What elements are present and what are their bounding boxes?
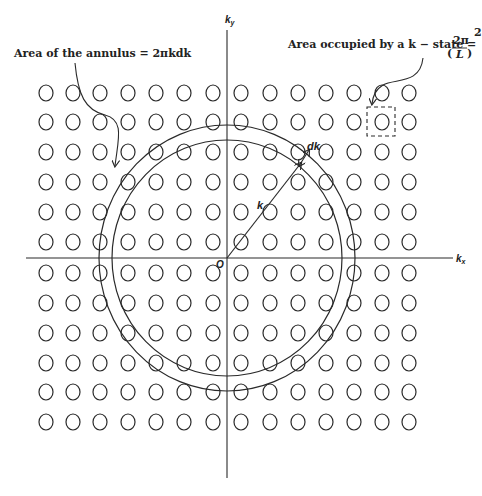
k-state-circle: [234, 144, 248, 160]
k-state-circle: [206, 174, 220, 190]
k-state-circle: [66, 325, 80, 341]
k-state-circle: [234, 355, 248, 371]
k-state-circle: [402, 144, 416, 160]
k-state-circle: [149, 144, 163, 160]
k-state-circle: [291, 265, 305, 281]
k-state-circle: [39, 414, 53, 430]
k-state-circle: [291, 114, 305, 130]
k-state-circle: [121, 234, 135, 250]
k-state-circle: [291, 174, 305, 190]
annulus-area-annotation: Area of the annulus = 2πkdk: [13, 47, 191, 60]
k-state-circle: [39, 85, 53, 101]
k-state-circle: [402, 414, 416, 430]
k-space-diagram: O k dk ky kx Area of the annulus = 2πkdk…: [0, 0, 482, 496]
k-state-circle: [66, 114, 80, 130]
k-state-circle: [291, 144, 305, 160]
k-state-circle: [39, 174, 53, 190]
k-state-circle: [93, 85, 107, 101]
k-state-circle: [347, 384, 361, 400]
k-state-circle: [206, 355, 220, 371]
k-state-circle: [39, 144, 53, 160]
k-state-circle: [347, 144, 361, 160]
k-state-circle: [402, 384, 416, 400]
k-state-circle: [149, 295, 163, 311]
k-state-circle: [93, 384, 107, 400]
k-state-circle: [177, 85, 191, 101]
k-state-circle: [149, 265, 163, 281]
k-state-circle: [291, 204, 305, 220]
k-state-circle: [263, 414, 277, 430]
ky-axis-label: ky: [225, 14, 236, 27]
k-state-circle: [402, 114, 416, 130]
k-state-circle: [121, 265, 135, 281]
k-state-circle: [149, 85, 163, 101]
k-state-circle: [263, 295, 277, 311]
k-state-circle: [177, 114, 191, 130]
k-state-circle: [375, 85, 389, 101]
k-state-circle: [149, 325, 163, 341]
k-state-circle: [39, 295, 53, 311]
k-state-circle: [319, 325, 333, 341]
k-state-circle: [347, 174, 361, 190]
k-state-circle: [39, 114, 53, 130]
k-state-circle: [402, 174, 416, 190]
k-state-circle: [402, 355, 416, 371]
k-state-circle: [39, 325, 53, 341]
k-state-circle: [66, 174, 80, 190]
k-state-circle: [263, 234, 277, 250]
k-state-circle: [66, 355, 80, 371]
k-state-circle: [93, 114, 107, 130]
k-state-circle: [291, 85, 305, 101]
k-state-circle: [234, 234, 248, 250]
k-vector-label: k: [257, 199, 264, 211]
k-state-circle: [402, 85, 416, 101]
k-state-circle: [375, 384, 389, 400]
origin-label: O: [216, 259, 224, 270]
k-state-circle: [93, 144, 107, 160]
kx-axis-label: kx: [456, 253, 467, 265]
k-state-circle: [319, 174, 333, 190]
k-state-circle: [319, 355, 333, 371]
dk-label: dk: [307, 140, 321, 152]
k-state-circle: [149, 174, 163, 190]
k-state-circle: [121, 325, 135, 341]
k-state-circle: [206, 414, 220, 430]
k-state-circle: [121, 114, 135, 130]
k-state-circle: [375, 144, 389, 160]
k-state-circle: [347, 114, 361, 130]
k-state-circle: [234, 414, 248, 430]
k-state-circle: [149, 234, 163, 250]
k-state-circle: [149, 204, 163, 220]
k-state-circle: [263, 384, 277, 400]
k-state-circle: [263, 355, 277, 371]
k-state-circle: [121, 414, 135, 430]
k-state-circle: [319, 85, 333, 101]
k-state-circle: [263, 204, 277, 220]
k-state-circle: [206, 114, 220, 130]
svg-text:): ): [467, 47, 472, 60]
k-state-circle: [93, 414, 107, 430]
k-state-circle: [93, 174, 107, 190]
k-state-circle: [347, 355, 361, 371]
k-state-circle: [234, 265, 248, 281]
k-state-circle: [291, 414, 305, 430]
k-state-circle: [375, 204, 389, 220]
k-state-circle: [263, 85, 277, 101]
k-state-circle: [177, 265, 191, 281]
k-state-circle: [177, 355, 191, 371]
k-state-circle: [291, 234, 305, 250]
k-state-circle: [263, 265, 277, 281]
svg-text:L: L: [455, 48, 464, 61]
k-state-circle: [177, 204, 191, 220]
k-state-circle: [206, 295, 220, 311]
k-state-circle: [93, 355, 107, 371]
k-state-circle: [234, 114, 248, 130]
k-state-circle: [121, 174, 135, 190]
kstate-area-annotation: Area occupied by a k − state = ( 2π L ) …: [287, 26, 482, 61]
k-state-circle: [234, 85, 248, 101]
k-state-circle: [263, 174, 277, 190]
svg-text:(: (: [447, 47, 452, 60]
k-state-circle: [206, 144, 220, 160]
svg-text:2π: 2π: [453, 34, 469, 47]
k-state-circle: [347, 325, 361, 341]
